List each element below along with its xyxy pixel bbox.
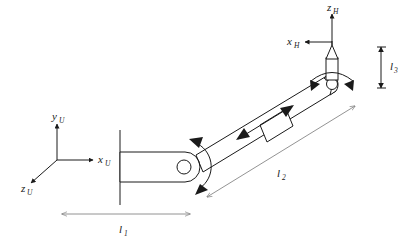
y-axis-u-label: y	[51, 110, 57, 122]
z-axis-u-label: z	[20, 182, 26, 194]
tool-shaft	[326, 58, 338, 80]
prismatic-joint-collar	[260, 109, 293, 142]
x-axis-u-label: x	[97, 153, 103, 165]
dimension-l1-group: l 1	[62, 214, 190, 238]
dimension-l2-label: l	[277, 167, 280, 179]
upper-arm-edge-top	[196, 74, 330, 155]
dimension-l1-subscript: 1	[124, 229, 128, 238]
z-axis-u-subscript: U	[27, 188, 33, 197]
tool-arrow-head-left	[310, 80, 320, 91]
shoulder-arrow-head-lower	[195, 184, 208, 195]
x-axis-h-label: x	[286, 35, 292, 47]
upper-arm-link-group	[196, 74, 338, 172]
tool-tip-point	[326, 45, 338, 59]
hand-frame-group: z H x H	[286, 1, 339, 50]
z-axis-u-arrow	[31, 160, 57, 183]
tool-arrow-head-right	[344, 80, 354, 91]
base-frame-group: y U x U z U	[20, 110, 111, 197]
dimension-l1-label: l	[119, 223, 122, 235]
dimension-l3-subscript: 3	[393, 66, 398, 75]
z-axis-h-subscript: H	[332, 7, 339, 16]
y-axis-u-subscript: U	[59, 116, 65, 125]
x-axis-h-subscript: H	[293, 41, 300, 50]
diagram-canvas: y U x U z U	[0, 0, 418, 242]
dimension-l2-subscript: 2	[282, 173, 286, 182]
base-link-group	[120, 130, 211, 205]
dimension-l3-group: l 3	[377, 47, 398, 88]
z-axis-h-label: z	[326, 1, 332, 13]
shoulder-joint-pivot	[177, 160, 191, 174]
dimension-l3-label: l	[390, 60, 393, 72]
x-axis-u-subscript: U	[105, 159, 111, 168]
robot-kinematic-diagram: y U x U z U	[0, 0, 418, 242]
